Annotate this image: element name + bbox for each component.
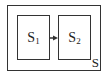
edge-s1-s2-arrow-icon [0,0,105,76]
